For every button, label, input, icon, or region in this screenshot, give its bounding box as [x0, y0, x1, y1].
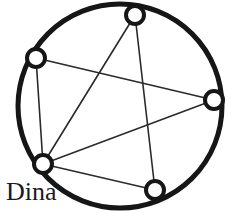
node-bottom	[146, 181, 164, 199]
circle-graph-diagram: Dina	[0, 0, 233, 213]
node-dina	[34, 155, 52, 173]
node-upper-left	[27, 49, 45, 67]
graph-edge-top-to-bottom	[135, 15, 155, 190]
labels-group: Dina	[6, 177, 57, 206]
graph-edge-right-to-dina	[43, 100, 214, 164]
chords-group	[36, 15, 214, 190]
node-right	[205, 91, 223, 109]
graph-edge-top-to-dina	[43, 15, 135, 164]
node-top	[126, 6, 144, 24]
graph-edge-upper-left-to-dina	[36, 58, 43, 164]
dina-label: Dina	[6, 177, 57, 206]
graph-edge-upper-left-to-right	[36, 58, 214, 100]
graph-canvas: Dina	[0, 0, 233, 213]
